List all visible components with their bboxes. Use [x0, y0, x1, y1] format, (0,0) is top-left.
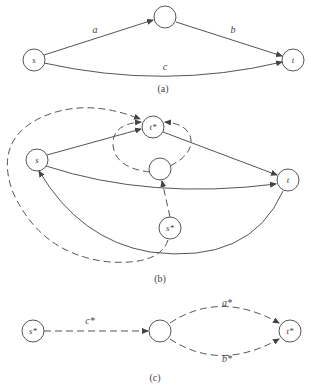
edge-s-to-tstar [47, 129, 141, 155]
caption-c: (c) [149, 372, 160, 384]
panel-c: s* t* c* a* b* (c) [22, 297, 301, 384]
node-sstar-label: s* [166, 223, 175, 233]
node-middle [149, 320, 171, 342]
node-tstar-label: t* [149, 122, 157, 132]
edge-b-label: b [231, 24, 236, 35]
edge-bstar-label: b* [222, 353, 232, 364]
caption-a: (a) [157, 83, 168, 95]
edge-c-label: c [163, 61, 168, 72]
node-middle [154, 6, 176, 28]
node-sstar-label: s* [29, 326, 38, 336]
node-middle [149, 158, 171, 180]
panel-b: s t* t s* (b) [7, 108, 299, 285]
edge-t-to-s [39, 171, 283, 254]
node-s-label: s [35, 155, 39, 165]
edge-tstar-to-t [163, 132, 277, 175]
panel-a: s t a b c (a) [23, 6, 304, 95]
flow-network-diagram: s t a b c (a) s t* t s* (b) [0, 0, 312, 387]
caption-b: (b) [154, 273, 166, 285]
edge-cstar-label: c* [85, 315, 94, 326]
edge-a [44, 20, 153, 55]
edge-astar-label: a* [222, 297, 232, 308]
edge-mid-to-tstar-right [165, 122, 191, 166]
node-s-label: s [32, 55, 36, 65]
edge-b [176, 22, 282, 56]
edge-astar [170, 307, 279, 324]
edge-a-label: a [93, 24, 98, 35]
node-tstar-label: t* [286, 326, 294, 336]
edge-sstar-to-mid [162, 181, 170, 217]
